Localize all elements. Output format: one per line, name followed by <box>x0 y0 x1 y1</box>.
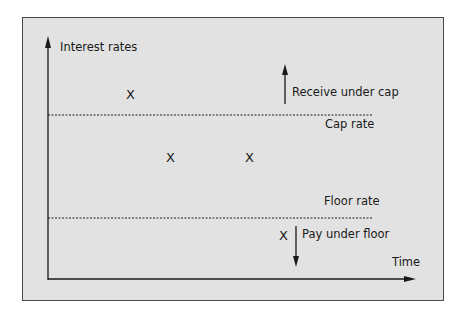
receive-under-cap-label: Receive under cap <box>292 87 399 99</box>
marker-above-cap: X <box>126 88 135 101</box>
marker-below-floor: X <box>279 229 288 242</box>
pay-under-floor-label: Pay under floor <box>302 229 389 241</box>
floor-rate-label: Floor rate <box>324 196 380 208</box>
cap-rate-label: Cap rate <box>325 119 374 131</box>
receive-arrow-icon <box>282 64 288 104</box>
y-axis-arrow-icon <box>45 36 51 48</box>
marker-between-2: X <box>245 151 254 164</box>
y-axis <box>45 36 51 280</box>
x-axis-label: Time <box>392 257 420 269</box>
x-axis <box>48 276 416 282</box>
pay-arrow-icon <box>293 226 299 267</box>
x-axis-arrow-icon <box>404 276 416 282</box>
marker-between-1: X <box>166 151 175 164</box>
y-axis-label: Interest rates <box>60 42 137 54</box>
